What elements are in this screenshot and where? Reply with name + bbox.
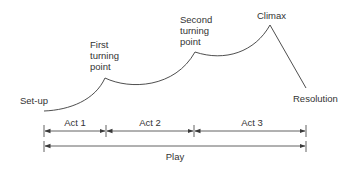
dramatic-structure-diagram: Set-up First turning point Second turnin… bbox=[0, 0, 357, 169]
act-2-label: Act 2 bbox=[139, 117, 161, 128]
second-turning-point-label: Second turning point bbox=[180, 14, 215, 47]
act-3-label: Act 3 bbox=[241, 117, 263, 128]
setup-label: Set-up bbox=[20, 95, 48, 106]
play-label: Play bbox=[166, 151, 185, 162]
resolution-label: Resolution bbox=[293, 93, 338, 104]
climax-label: Climax bbox=[257, 10, 286, 21]
first-turning-point-label: First turning point bbox=[90, 39, 122, 72]
act-1-label: Act 1 bbox=[64, 117, 86, 128]
tension-curve bbox=[44, 25, 306, 111]
